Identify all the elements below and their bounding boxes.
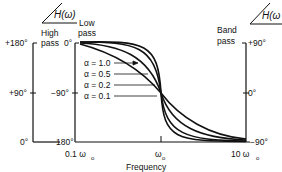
header-left: H(ω) xyxy=(54,9,76,20)
high-pass-label-1: High xyxy=(41,28,59,38)
alpha-label-0.5: α = 0.5 xyxy=(84,69,111,79)
x-tick-01-sub: o xyxy=(91,155,95,161)
lp-tick-0: 0° xyxy=(64,38,72,48)
bp-tick-neg90: −90° xyxy=(250,137,268,147)
high-pass-label-2: pass xyxy=(41,38,59,48)
x-tick-1: ω xyxy=(155,149,162,159)
bp-tick-0: 0° xyxy=(248,88,256,98)
hp-tick-90: +90° xyxy=(9,88,27,98)
low-pass-axis xyxy=(72,43,79,142)
phase-response-chart: H(ω) H(ω High pass Low pass Band pass +1… xyxy=(0,0,282,172)
leader-lines xyxy=(114,61,157,96)
header-right: H(ω xyxy=(262,10,281,21)
x-axis-label: Frequency xyxy=(126,162,167,172)
low-pass-label-2: pass xyxy=(78,28,96,38)
hp-tick-180: +180° xyxy=(5,38,28,48)
alpha-label-0.1: α = 0.1 xyxy=(84,91,111,101)
x-tick-10: 10 ω xyxy=(231,149,250,159)
x-tick-1-sub: o xyxy=(162,155,166,161)
hp-tick-0: 0° xyxy=(20,137,28,147)
lp-tick-180: 180° xyxy=(56,137,74,147)
alpha-label-1: α = 1.0 xyxy=(84,58,111,68)
x-tick-10-sub: o xyxy=(256,155,260,161)
band-pass-label-2: pass xyxy=(217,36,235,46)
bp-tick-90: +90° xyxy=(248,38,266,48)
low-pass-label-1: Low xyxy=(79,18,95,28)
band-pass-label-1: Band xyxy=(217,25,237,35)
alpha-label-0.2: α = 0.2 xyxy=(84,80,111,90)
x-tick-01: 0.1 ω xyxy=(65,149,86,159)
lp-tick-90: −90° xyxy=(51,88,69,98)
